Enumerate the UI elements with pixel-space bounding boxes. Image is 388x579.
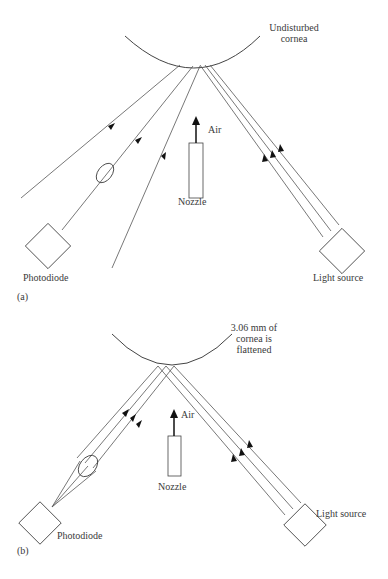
cornea-label-line: cornea is: [222, 333, 286, 344]
arrow-icon: [278, 144, 284, 152]
arrow-icon: [262, 154, 268, 162]
cornea-label-line: Undisturbed: [262, 22, 326, 33]
arrow-icon: [122, 409, 129, 417]
air-label-b: Air: [181, 409, 194, 420]
cornea-label-line: flattened: [222, 344, 286, 355]
arrow-icon: [136, 420, 142, 428]
cornea-arc: [125, 36, 260, 68]
photodiode-label-b: Photodiode: [57, 530, 103, 541]
applanation-diagram: [0, 0, 388, 579]
photodiode-box: [25, 223, 70, 268]
cornea-label-line: cornea: [262, 33, 326, 44]
photodiode-box: [19, 502, 61, 544]
nozzle: [168, 436, 181, 476]
arrow-icon: [247, 440, 253, 448]
arrow-icon: [135, 137, 142, 144]
panel-label-b: (b): [17, 545, 29, 556]
photodiode-label-a: Photodiode: [23, 272, 69, 283]
air-label-a: Air: [208, 124, 221, 135]
light-source-label-b: Light source: [316, 508, 366, 519]
light-source-label-a: Light source: [313, 272, 363, 283]
nozzle-label-a: Nozzle: [178, 196, 206, 207]
cornea-label-line: 3.06 mm of: [222, 322, 286, 333]
air-arrow-icon: [192, 116, 200, 125]
panel-a: [21, 36, 365, 274]
panel-label-a: (a): [17, 291, 28, 302]
nozzle: [189, 143, 203, 198]
cornea-label-b: 3.06 mm of cornea is flattened: [222, 322, 286, 355]
light-source-box: [319, 228, 364, 273]
nozzle-label-b: Nozzle: [158, 481, 186, 492]
panel-b: [19, 334, 326, 546]
cornea-arc: [112, 334, 232, 365]
air-arrow-icon: [170, 409, 178, 418]
cornea-label-a: Undisturbed cornea: [262, 22, 326, 44]
